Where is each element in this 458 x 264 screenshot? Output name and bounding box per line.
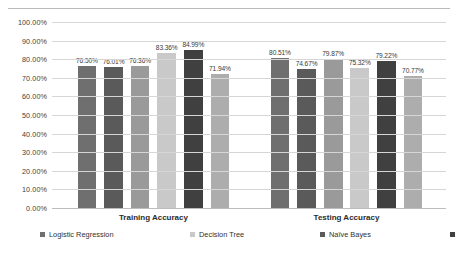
gridline [52, 78, 446, 79]
category-label-training: Training Accuracy [74, 213, 234, 222]
bar: 76.36% [131, 66, 150, 208]
gridline [52, 152, 446, 153]
legend-item[interactable]: Naïve Bayes [320, 230, 450, 239]
chart-legend: Logistic RegressionDecision TreeNaïve Ba… [40, 226, 450, 243]
legend-label: Naïve Bayes [329, 230, 371, 239]
category-label-testing: Testing Accuracy [267, 213, 427, 222]
bar-value-label: 71.94% [209, 65, 231, 72]
bar-value-label: 79.87% [322, 50, 344, 57]
legend-swatch-icon [320, 232, 325, 237]
bar: 83.36% [157, 53, 176, 208]
top-divider [8, 8, 450, 9]
y-axis-tick-label: 90.00% [22, 36, 47, 45]
y-axis-tick-label: 20.00% [22, 166, 47, 175]
bar-value-label: 83.36% [156, 44, 178, 51]
gridline [52, 134, 446, 135]
y-axis-tick-label: 10.00% [22, 185, 47, 194]
bar: 75.32% [350, 68, 369, 208]
plot-area: 76.50%76.01%76.36%83.36%84.99%71.94%Trai… [52, 22, 446, 208]
legend-item[interactable]: Decision Tree [190, 230, 320, 239]
legend-label: Decision Tree [199, 230, 244, 239]
legend-swatch-icon [450, 232, 455, 237]
gridline [52, 22, 446, 23]
legend-label: Logistic Regression [49, 230, 114, 239]
bar: 76.01% [104, 67, 123, 208]
bar-value-label: 79.22% [375, 52, 397, 59]
y-axis-tick-label: 70.00% [22, 73, 47, 82]
legend-swatch-icon [40, 232, 45, 237]
bar-value-label: 84.99% [182, 41, 204, 48]
y-axis-tick-label: 30.00% [22, 148, 47, 157]
y-axis-tick-label: 50.00% [22, 111, 47, 120]
gridline [52, 59, 446, 60]
bar-chart: 76.50%76.01%76.36%83.36%84.99%71.94%Trai… [0, 0, 458, 264]
bar-value-label: 76.50% [76, 57, 98, 64]
bar-value-label: 70.77% [402, 67, 424, 74]
bar-value-label: 80.51% [269, 49, 291, 56]
bar: 84.99% [184, 50, 203, 208]
gridline [52, 171, 446, 172]
bar: 71.94% [211, 74, 230, 208]
gridline [52, 208, 446, 209]
y-axis-tick-label: 0.00% [26, 204, 47, 213]
gridline [52, 115, 446, 116]
legend-item[interactable]: Random Forest [450, 230, 458, 239]
legend-swatch-icon [190, 232, 195, 237]
y-axis-tick-label: 80.00% [22, 55, 47, 64]
gridline [52, 41, 446, 42]
gridline [52, 96, 446, 97]
bar-value-label: 76.36% [129, 57, 151, 64]
y-axis-tick-label: 100.00% [18, 18, 47, 27]
legend-item[interactable]: Logistic Regression [40, 230, 190, 239]
y-axis-tick-label: 40.00% [22, 129, 47, 138]
gridline [52, 189, 446, 190]
bar: 74.67% [297, 69, 316, 208]
bar: 76.50% [78, 66, 97, 208]
bar-value-label: 74.67% [296, 60, 318, 67]
y-axis-tick-label: 60.00% [22, 92, 47, 101]
